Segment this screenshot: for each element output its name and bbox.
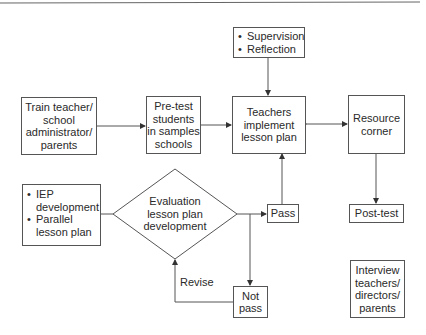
pass-box: Pass — [267, 204, 299, 223]
pretest-box: Pre-test students in samples schools — [146, 96, 201, 154]
interview-line-3: directors/ — [355, 289, 400, 302]
parallel-item-line-1: Parallel — [36, 213, 92, 226]
pass-label: Pass — [271, 207, 295, 220]
pretest-line-3: in samples — [147, 125, 200, 138]
supervision-box: •Supervision •Reflection — [233, 27, 305, 58]
evaluation-label: Evaluation lesson plan development — [135, 195, 215, 233]
not-pass-box: Not pass — [233, 286, 268, 318]
parallel-item-line-2: lesson plan — [36, 226, 92, 239]
resource-corner-box: Resource corner — [348, 95, 405, 154]
teachers-line-3: lesson plan — [241, 131, 297, 144]
train-line-3: administrator/ — [25, 126, 92, 139]
notpass-line-1: Not — [239, 290, 262, 303]
teachers-implement-box: Teachers implement lesson plan — [232, 96, 306, 154]
notpass-line-2: pass — [239, 302, 262, 315]
interview-line-4: parents — [355, 302, 400, 315]
posttest-label: Post-test — [355, 207, 398, 220]
evaluation-line-1: Evaluation — [149, 195, 200, 208]
top-rule — [0, 2, 420, 3]
train-line-1: Train teacher/ — [25, 101, 92, 114]
iep-box: • IEP development • Parallel lesson plan — [22, 184, 101, 246]
evaluation-line-3: development — [144, 220, 207, 233]
supervision-item: Supervision — [247, 30, 304, 43]
bullet-icon: • — [238, 30, 247, 43]
teachers-line-2: implement — [241, 119, 297, 132]
interview-box: Interview teachers/ directors/ parents — [350, 260, 405, 318]
bullet-icon: • — [27, 213, 36, 238]
resource-line-1: Resource — [353, 112, 400, 125]
teachers-line-1: Teachers — [241, 106, 297, 119]
train-teacher-box: Train teacher/ school administrator/ par… — [21, 97, 97, 155]
train-line-2: school — [25, 114, 92, 127]
pretest-line-1: Pre-test — [147, 100, 200, 113]
iep-item-line-1: IEP — [36, 188, 99, 201]
interview-line-2: teachers/ — [355, 277, 400, 290]
pretest-line-2: students — [147, 113, 200, 126]
bullet-icon: • — [27, 188, 36, 213]
interview-line-1: Interview — [355, 264, 400, 277]
evaluation-line-2: lesson plan — [147, 208, 203, 221]
revise-label: Revise — [180, 276, 214, 288]
pretest-line-4: schools — [147, 138, 200, 151]
resource-line-2: corner — [353, 125, 400, 138]
bullet-icon: • — [238, 43, 247, 56]
reflection-item: Reflection — [247, 43, 296, 56]
iep-item-line-2: development — [36, 201, 99, 214]
posttest-box: Post-test — [349, 204, 404, 223]
train-line-4: parents — [25, 139, 92, 152]
